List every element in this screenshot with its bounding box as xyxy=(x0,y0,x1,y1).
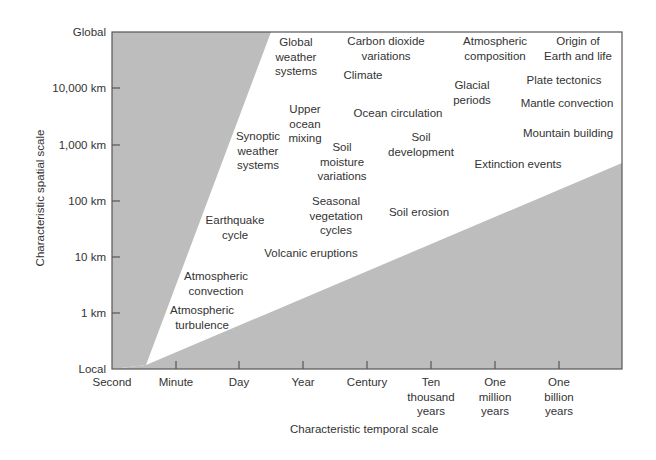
x-tick-label: Year xyxy=(291,375,314,390)
x-tick-label: One million years xyxy=(479,375,512,419)
y-tick-label: Local xyxy=(6,362,106,376)
phenomenon-label: Extinction events xyxy=(475,157,562,172)
y-tick-label: 1 km xyxy=(6,306,106,320)
y-tick-label: 10 km xyxy=(6,250,106,264)
phenomenon-label: Ocean circulation xyxy=(354,106,443,121)
phenomenon-label: Global weather systems xyxy=(275,35,317,79)
y-axis-title: Characteristic spatial scale xyxy=(34,130,46,267)
phenomenon-label: Carbon dioxide variations xyxy=(347,34,424,63)
phenomenon-label: Atmospheric turbulence xyxy=(170,303,234,332)
scale-diagram: Global10,000 km1,000 km100 km10 km1 kmLo… xyxy=(0,0,656,460)
phenomenon-label: Mantle convection xyxy=(521,96,614,111)
x-axis-title: Characteristic temporal scale xyxy=(290,423,438,435)
x-tick-label: Minute xyxy=(159,375,194,390)
phenomenon-label: Origin of Earth and life xyxy=(544,34,612,63)
x-tick-label: One billion years xyxy=(544,375,573,419)
x-tick-label: Second xyxy=(92,375,131,390)
y-tick-label: 100 km xyxy=(6,194,106,208)
phenomenon-label: Soil moisture variations xyxy=(317,140,366,184)
phenomenon-label: Glacial periods xyxy=(453,78,491,107)
phenomenon-label: Earthquake cycle xyxy=(206,213,265,242)
y-tick-label: 10,000 km xyxy=(6,81,106,95)
phenomenon-label: Synoptic weather systems xyxy=(236,129,280,173)
x-tick-label: Ten thousand years xyxy=(407,375,454,419)
y-tick-label: Global xyxy=(6,25,106,39)
phenomenon-label: Soil erosion xyxy=(389,205,449,220)
x-tick-label: Day xyxy=(229,375,249,390)
phenomenon-label: Volcanic eruptions xyxy=(264,246,357,261)
x-tick-label: Century xyxy=(347,375,387,390)
phenomenon-label: Atmospheric composition xyxy=(463,34,527,63)
phenomenon-label: Soil development xyxy=(388,130,454,159)
y-tick-label: 1,000 km xyxy=(6,138,106,152)
phenomenon-label: Mountain building xyxy=(523,126,613,141)
phenomenon-label: Atmospheric convection xyxy=(184,269,248,298)
phenomenon-label: Plate tectonics xyxy=(527,73,602,88)
phenomenon-label: Upper ocean mixing xyxy=(288,102,321,146)
phenomenon-label: Climate xyxy=(344,68,383,83)
phenomenon-label: Seasonal vegetation cycles xyxy=(309,194,362,238)
